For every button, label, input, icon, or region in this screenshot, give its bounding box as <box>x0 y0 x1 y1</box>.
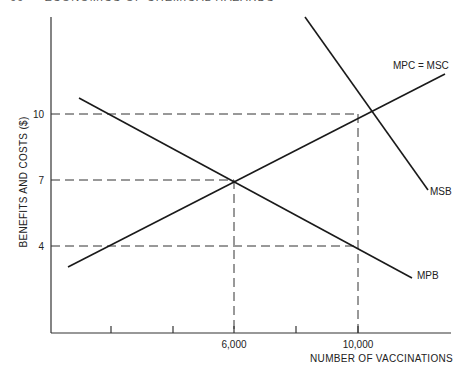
x-tick-labels: 6,000 10,000 <box>221 339 373 350</box>
mpb-label: MPB <box>417 270 439 281</box>
y-tick-label-10: 10 <box>33 109 45 120</box>
mpc-msc-label: MPC = MSC <box>393 60 449 71</box>
mpb-curve <box>79 98 412 278</box>
y-tick-label-4: 4 <box>38 241 44 252</box>
curve-labels: MPC = MSC MSB MPB <box>393 60 452 281</box>
mpc-msc-curve <box>68 74 445 267</box>
curves <box>68 17 445 278</box>
x-axis-title: NUMBER OF VACCINATIONS <box>310 353 453 364</box>
y-tick-label-7: 7 <box>38 175 44 186</box>
axes <box>51 17 451 333</box>
x-tick-label-10000: 10,000 <box>343 339 374 350</box>
msb-curve <box>305 17 428 190</box>
vaccination-chart: 10 7 4 6,000 10,000 NUMBER OF VACCINATIO… <box>0 0 468 373</box>
msb-label: MSB <box>430 186 452 197</box>
y-axis-title: BENEFITS AND COSTS ($) <box>18 116 29 247</box>
y-tick-labels: 10 7 4 <box>33 109 45 252</box>
x-tick-label-6000: 6,000 <box>221 339 246 350</box>
